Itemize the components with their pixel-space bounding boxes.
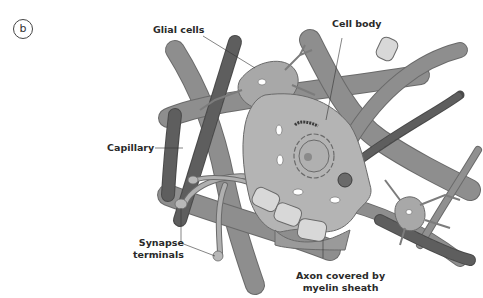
label-capillary: Capillary (107, 142, 154, 154)
label-synapse-line1: Synapse (133, 237, 184, 249)
label-glial-cells: Glial cells (153, 24, 205, 36)
label-cell-body: Cell body (332, 18, 382, 30)
label-axon-line1: Axon covered by (296, 270, 385, 282)
label-synapse-terminals: Synapse terminals (133, 237, 184, 261)
label-axon-line2: myelin sheath (296, 282, 385, 294)
label-axon-myelin: Axon covered by myelin sheath (296, 270, 385, 294)
label-synapse-line2: terminals (133, 249, 184, 261)
neuron-diagram (0, 0, 483, 298)
